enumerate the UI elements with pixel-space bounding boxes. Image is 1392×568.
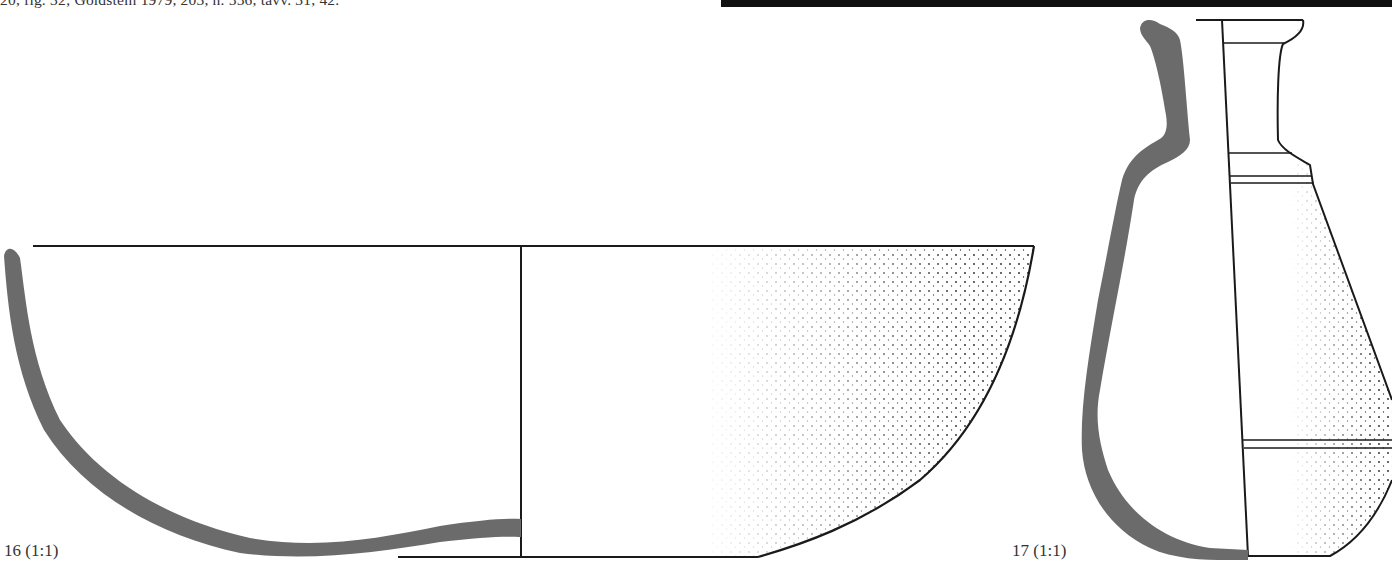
figure-16-caption: 16 (1:1) [4,541,58,561]
figure-16-bowl [4,246,1034,557]
jug-section-profile [1082,20,1248,560]
jug-exterior-stipple [1223,20,1392,556]
figure-canvas [0,0,1392,568]
bowl-section-profile [4,249,521,557]
bowl-exterior-stipple [521,246,1034,557]
figure-17-caption: 17 (1:1) [1012,541,1066,561]
figure-17-jug [1082,20,1392,560]
